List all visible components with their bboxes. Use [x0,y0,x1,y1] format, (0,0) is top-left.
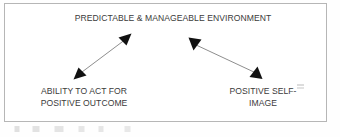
connector-ability-to-environment [74,34,132,80]
connector-line [194,44,256,73]
node-label-predictable-manageable-environment: PREDICTABLE & MANAGEABLE ENVIRONMENT [40,13,306,25]
scan-artifact-strip [6,126,206,132]
scan-speck-right [297,84,304,89]
node-label-positive-self-image: POSITIVE SELF- IMAGE [209,86,317,109]
arrowhead-down-right [250,67,263,80]
diagram-canvas: PREDICTABLE & MANAGEABLE ENVIRONMENT ABI… [0,0,340,137]
arrowhead-down-left [74,68,87,80]
connector-line [80,39,126,74]
arrowhead-up-left [189,38,202,51]
node-label-ability-to-act-for-positive-outcome: ABILITY TO ACT FOR POSITIVE OUTCOME [22,86,146,109]
connector-environment-to-self-image [189,38,263,80]
